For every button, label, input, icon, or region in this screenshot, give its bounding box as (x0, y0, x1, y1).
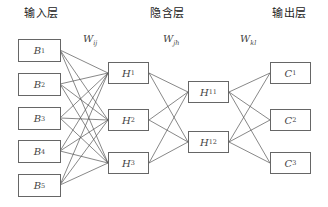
node-h2: H2 (108, 109, 149, 131)
weight-label-jh: Wjh (163, 33, 179, 47)
output-layer-title: 输出层 (272, 4, 307, 20)
weight-label-kl: Wkl (240, 33, 256, 47)
node-b4: B4 (18, 140, 61, 163)
node-b2: B2 (18, 73, 61, 96)
hidden-layer-title: 隐含层 (150, 4, 185, 20)
node-c3: C3 (270, 152, 311, 174)
input-layer-title: 输入层 (24, 4, 59, 20)
node-h1: H1 (108, 62, 149, 84)
node-c1: C1 (270, 62, 311, 84)
node-b1: B1 (18, 39, 61, 62)
node-b3: B3 (18, 107, 61, 130)
node-h3: H3 (108, 152, 149, 174)
node-h12: H12 (188, 131, 229, 153)
node-c2: C2 (270, 109, 311, 131)
node-h11: H11 (188, 81, 229, 103)
node-b5: B5 (18, 174, 61, 197)
weight-label-ij: Wij (83, 33, 97, 47)
